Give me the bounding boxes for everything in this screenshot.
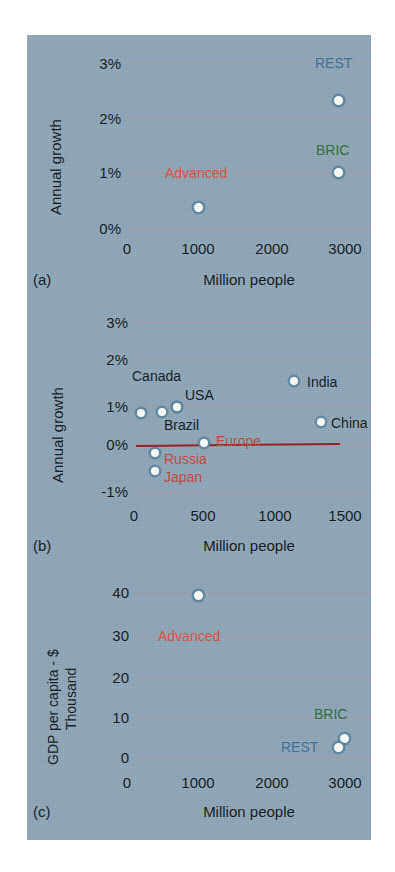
panel-letter-a: (a): [33, 271, 51, 288]
ytick-b-1: 1%: [67, 399, 128, 414]
country-label-canada: Canada: [132, 369, 181, 383]
xtick-a-0: 0: [107, 241, 147, 256]
ytick-a-2: 2%: [63, 111, 121, 126]
gridline-b-3: [134, 322, 371, 323]
country-label-europe: Europe: [216, 434, 261, 448]
panel-letter-c: (c): [33, 803, 51, 820]
ytick-b-n1: -1%: [59, 484, 128, 499]
series-label-advanced-a: Advanced: [165, 166, 227, 180]
data-point-usa: [171, 401, 183, 413]
data-point-rest-c: [332, 741, 345, 754]
data-point-bric-a: [332, 166, 345, 179]
series-label-bric-c: BRIC: [314, 707, 347, 721]
xtick-a-3000: 3000: [325, 241, 365, 256]
series-label-advanced-c: Advanced: [158, 629, 220, 643]
country-label-china: China: [331, 416, 368, 430]
data-point-rest-a: [332, 94, 345, 107]
y-axis-title-c-line2: Thousand: [63, 668, 79, 730]
ytick-c-30: 30: [79, 628, 129, 643]
gridline-a-2: [127, 118, 371, 119]
chart-panel-b: 3% 2% 1% 0% -1% 0 500 1000 1500 Canada U…: [27, 303, 371, 555]
chart-panel-c: 40 30 20 10 0 0 1000 2000 3000 Advanced …: [27, 555, 371, 840]
data-point-japan: [149, 465, 161, 477]
data-point-russia: [149, 447, 161, 459]
gridline-c-40: [135, 593, 371, 594]
xtick-b-0: 0: [114, 508, 154, 523]
ytick-c-20: 20: [79, 670, 129, 685]
data-point-china: [315, 416, 327, 428]
gridline-b-2: [134, 359, 371, 360]
xtick-c-1000: 1000: [178, 775, 218, 790]
data-point-advanced-c: [192, 589, 205, 602]
country-label-brazil: Brazil: [164, 418, 199, 432]
gridline-b-n1: [134, 491, 371, 492]
ytick-c-0: 0: [79, 750, 129, 765]
ytick-c-40: 40: [79, 585, 129, 600]
data-point-india: [288, 375, 300, 387]
series-label-bric-a: BRIC: [316, 143, 349, 157]
chart-panel-a: 3% 2% 1% 0% 0 1000 2000 3000 REST BRIC A…: [27, 35, 371, 303]
y-axis-title-b: Annual growth: [49, 387, 66, 483]
ytick-a-0: 0%: [63, 221, 121, 236]
xtick-a-1000: 1000: [178, 241, 218, 256]
data-point-advanced-a: [192, 201, 205, 214]
ytick-a-3: 3%: [63, 56, 121, 71]
ytick-b-0: 0%: [67, 437, 128, 452]
ytick-c-10: 10: [79, 710, 129, 725]
ytick-b-3: 3%: [67, 315, 128, 330]
gridline-b-1: [134, 406, 371, 407]
ytick-a-1: 1%: [63, 165, 121, 180]
series-label-rest-c: REST: [281, 740, 318, 754]
country-label-japan: Japan: [164, 470, 202, 484]
figure-panel: 3% 2% 1% 0% 0 1000 2000 3000 REST BRIC A…: [27, 35, 371, 840]
xtick-a-2000: 2000: [252, 241, 292, 256]
series-label-rest-a: REST: [315, 56, 352, 70]
xtick-b-1000: 1000: [255, 508, 295, 523]
x-axis-title-a: Million people: [127, 271, 371, 288]
y-axis-title-a: Annual growth: [47, 119, 64, 215]
country-label-russia: Russia: [164, 452, 207, 466]
x-axis-title-c: Million people: [127, 803, 371, 820]
y-axis-title-c-line1: GDP per capita - $: [45, 649, 61, 765]
country-label-usa: USA: [185, 388, 214, 402]
data-point-canada: [135, 407, 147, 419]
data-point-europe: [198, 437, 210, 449]
gridline-c-0: [135, 758, 371, 759]
xtick-c-0: 0: [107, 775, 147, 790]
panel-letter-b: (b): [33, 537, 51, 554]
ytick-b-2: 2%: [67, 352, 128, 367]
xtick-b-500: 500: [183, 508, 223, 523]
gridline-c-20: [135, 678, 371, 679]
xtick-c-3000: 3000: [325, 775, 365, 790]
x-axis-title-b: Million people: [127, 537, 371, 554]
country-label-india: India: [307, 375, 337, 389]
gridline-a-0: [127, 228, 371, 229]
xtick-b-1500: 1500: [325, 508, 365, 523]
xtick-c-2000: 2000: [252, 775, 292, 790]
